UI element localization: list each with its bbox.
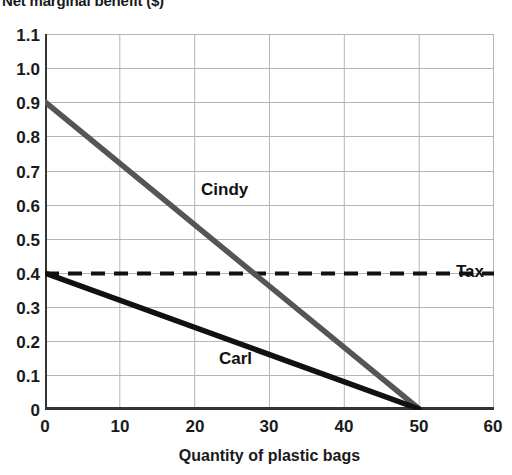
x-tick-label: 10 bbox=[96, 418, 144, 435]
y-tick-label: 0.8 bbox=[4, 129, 40, 146]
series-label-tax: Tax bbox=[456, 263, 484, 280]
y-tick-label: 0.2 bbox=[4, 334, 40, 351]
x-tick-label: 40 bbox=[320, 418, 368, 435]
series-label-carl: Carl bbox=[219, 350, 252, 367]
y-tick-label: 0.4 bbox=[4, 266, 40, 283]
chart-figure: Net marginal benefit ($) 1.1 1.0 0.9 0.8… bbox=[0, 0, 512, 475]
y-tick-label: 0.7 bbox=[4, 164, 40, 181]
plot-canvas bbox=[45, 34, 494, 410]
y-tick-label: 0 bbox=[4, 402, 40, 419]
y-tick-label: 0.6 bbox=[4, 198, 40, 215]
x-tick-label: 20 bbox=[171, 418, 219, 435]
grid-lines-vertical bbox=[120, 34, 494, 410]
y-tick-label: 0.9 bbox=[4, 95, 40, 112]
y-tick-label: 1.0 bbox=[4, 61, 40, 78]
x-axis-tick-labels: 0 10 20 30 40 50 60 bbox=[0, 418, 512, 442]
x-axis-title: Quantity of plastic bags bbox=[45, 447, 494, 465]
y-tick-label: 0.1 bbox=[4, 368, 40, 385]
x-tick-label: 60 bbox=[469, 418, 512, 435]
plot-area: Cindy Carl Tax bbox=[45, 34, 494, 410]
y-axis-tick-labels: 1.1 1.0 0.9 0.8 0.7 0.6 0.5 0.4 0.3 0.2 … bbox=[0, 0, 40, 475]
y-tick-label: 0.3 bbox=[4, 300, 40, 317]
y-tick-label: 0.5 bbox=[4, 232, 40, 249]
x-tick-label: 50 bbox=[395, 418, 443, 435]
y-tick-label: 1.1 bbox=[4, 27, 40, 44]
x-tick-label: 0 bbox=[21, 418, 69, 435]
series-label-cindy: Cindy bbox=[201, 181, 248, 198]
x-tick-label: 30 bbox=[245, 418, 293, 435]
